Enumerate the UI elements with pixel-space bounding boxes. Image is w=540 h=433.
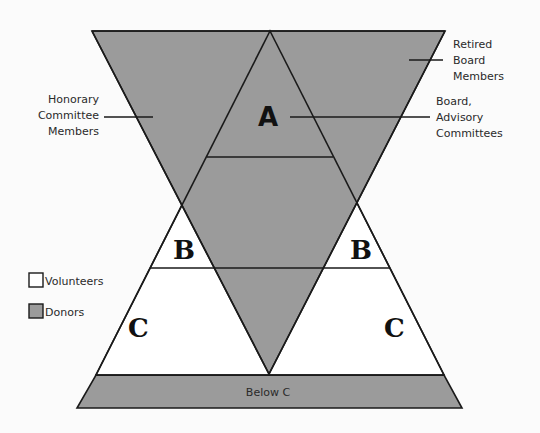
below-c-label: Below C [246, 386, 291, 399]
board-advisory-label: Board, Advisory Committees [436, 95, 503, 140]
svg-text:Members: Members [453, 70, 504, 83]
svg-text:Honorary: Honorary [48, 93, 99, 106]
svg-text:Retired: Retired [453, 38, 492, 51]
volunteers-swatch [29, 273, 43, 287]
region-b-right-label: B [350, 235, 372, 265]
region-a-label: A [258, 102, 278, 132]
legend: Volunteers Donors [29, 273, 104, 319]
svg-text:Committee: Committee [38, 109, 99, 122]
retired-board-label: Retired Board Members [453, 38, 504, 83]
svg-text:Committees: Committees [436, 127, 503, 140]
svg-text:Board,: Board, [436, 95, 472, 108]
region-c-right-label: C [384, 313, 405, 343]
svg-text:Members: Members [48, 125, 99, 138]
donors-swatch [29, 304, 43, 318]
svg-text:Advisory: Advisory [436, 111, 484, 124]
donor-volunteer-diagram: A B B C C Honorary Committee Members Ret… [0, 0, 540, 433]
volunteers-legend-label: Volunteers [45, 275, 104, 288]
svg-text:Board: Board [453, 54, 485, 67]
donors-legend-label: Donors [45, 306, 84, 319]
region-c-left-label: C [128, 313, 149, 343]
honorary-label: Honorary Committee Members [38, 93, 100, 138]
region-b-left-label: B [173, 235, 195, 265]
